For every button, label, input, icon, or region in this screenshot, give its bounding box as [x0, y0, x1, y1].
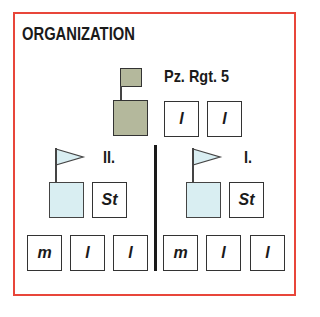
battalion-pennant-icon	[55, 148, 85, 168]
battalion-hq-symbol	[49, 182, 84, 218]
battalion-staff-box: St	[92, 182, 127, 218]
battalion-staff-box: St	[229, 182, 264, 218]
regiment-flag-icon	[120, 68, 142, 87]
company-box: l	[206, 235, 241, 271]
battalion-pennant-icon	[192, 148, 222, 168]
battalion-flag-pole	[192, 148, 194, 183]
regiment-sub-unit: l	[164, 101, 199, 137]
battalion-hq-symbol	[186, 182, 221, 218]
diagram-title: ORGANIZATION	[22, 24, 135, 45]
regiment-flag-pole	[120, 86, 122, 101]
regiment-label: Pz. Rgt. 5	[164, 67, 229, 87]
battalion-label: I.	[244, 148, 252, 168]
battalion-divider	[154, 145, 157, 271]
company-box: l	[113, 235, 148, 271]
battalion-flag-pole	[55, 148, 57, 183]
regiment-hq-symbol	[113, 100, 148, 136]
regiment-sub-unit: l	[207, 101, 242, 137]
company-box: l	[250, 235, 285, 271]
company-box: l	[70, 235, 105, 271]
company-box: m	[163, 235, 198, 271]
company-box: m	[27, 235, 62, 271]
battalion-label: II.	[103, 148, 115, 168]
